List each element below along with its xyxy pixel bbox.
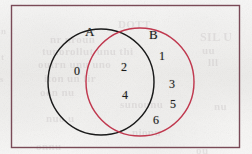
venn-diagram-figure: ntsDOTTnr nrountunorollut unu thioutrn u… — [0, 0, 252, 154]
universal-set-frame — [12, 6, 240, 148]
diagram-vector-layer — [0, 0, 252, 154]
set-b-circle — [86, 28, 194, 136]
